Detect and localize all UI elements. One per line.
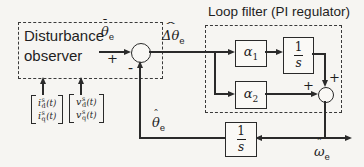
arrowhead-into-alpha2 [228,91,235,97]
right-bracket [58,95,63,124]
right-bracket [99,94,104,123]
wire-branch-to-alpha2 [215,93,228,95]
wire-omega-out [325,137,345,139]
summing-junction-pi-output [318,87,334,103]
sum2-plus-left-sign: + [303,79,314,92]
voltage-vector: vsd(t) vsq(t) [69,94,104,123]
wire-alpha2-out [265,93,311,95]
signal-theta-hat: ˆθe [152,116,165,133]
signal-theta-bar: ¯θe [101,25,114,42]
gain-alpha2-block: α2 [235,81,267,109]
signal-omega-hat: ˆωe [314,145,330,162]
arrowhead-into-integrator [276,49,283,55]
current-vector: isd(t) isq(t) [31,95,63,124]
loop-filter-title: Loop filter (PI regulator) [203,4,355,19]
vector-entry: vsd(t) [76,96,97,108]
sum1-minus-sign: - [128,61,133,76]
signal-delta-theta-hat: ˆΔθe [162,29,185,46]
wire-feedback-horizontal [140,137,225,139]
sum1-plus-sign: + [107,52,118,65]
sum2-plus-top-sign: + [329,71,340,84]
arrowhead-into-sum2-top [322,80,328,87]
arrowhead-current-input [40,77,46,84]
integrator-feedback-block: 1s [225,122,257,157]
summing-junction-position-error [131,43,151,63]
wire-integrator-down [324,54,326,80]
bar-accent: ¯ [101,19,109,31]
vector-entry: vsq(t) [76,109,97,121]
wire-delta-theta [149,51,228,53]
vector-entry: isq(t) [38,110,56,122]
wire-sum2-down [324,101,326,138]
arrowhead-voltage-input [78,77,84,84]
wide-hat-accent: ˆ [148,22,193,33]
arrowhead-into-sum1-bottom [137,61,143,68]
arrowhead-into-sum1 [124,49,131,55]
arrowhead-into-alpha1 [228,49,235,55]
block-diagram-canvas: Disturbance observer Loop filter (PI reg… [0,0,364,167]
wire-current-input [42,84,44,95]
vector-entry: isd(t) [38,97,56,109]
hat-accent: ˆ [314,138,325,149]
hat-accent: ˆ [152,109,160,120]
gain-alpha1-block: α1 [235,40,267,67]
arrowhead-omega-output [345,135,352,141]
wire-feedback-vertical [139,68,141,139]
wire-branch-vertical [214,52,216,95]
integrator-loop-block: 1s [283,37,314,74]
